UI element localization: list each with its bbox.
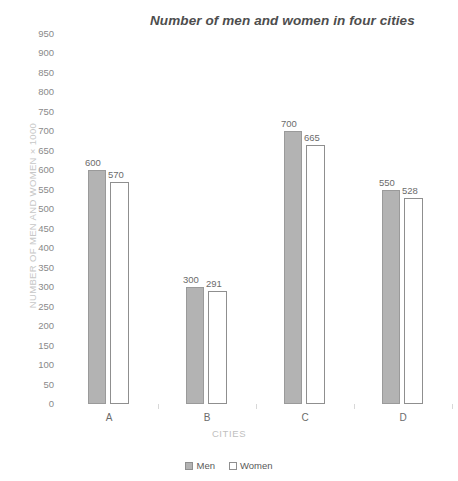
y-tick-label: 250 <box>24 302 54 312</box>
y-tick-label: 750 <box>24 107 54 117</box>
bar-value-label-men: 600 <box>85 157 101 168</box>
bar-men[interactable] <box>284 131 302 404</box>
bar-chart: Number of men and women in four cities N… <box>0 0 458 481</box>
bar-value-label-women: 291 <box>206 278 222 289</box>
bar-women[interactable] <box>404 198 423 404</box>
x-tick-label: C <box>285 412 325 423</box>
x-tick-label: A <box>89 412 129 423</box>
y-tick-label: 950 <box>24 29 54 39</box>
legend-label: Women <box>240 460 273 471</box>
chart-legend: MenWomen <box>0 460 458 471</box>
y-tick-label: 700 <box>24 126 54 136</box>
y-tick-label: 50 <box>24 380 54 390</box>
bar-men[interactable] <box>186 287 204 404</box>
y-tick-label: 500 <box>24 204 54 214</box>
legend-item[interactable]: Men <box>185 460 214 471</box>
legend-swatch-icon <box>229 462 237 470</box>
y-tick-label: 200 <box>24 321 54 331</box>
bar-value-label-women: 528 <box>402 185 418 196</box>
legend-swatch-icon <box>185 462 193 470</box>
bar-group: 700665 <box>284 34 326 404</box>
y-tick-label: 150 <box>24 341 54 351</box>
chart-title: Number of men and women in four cities <box>150 13 450 28</box>
bar-value-label-men: 550 <box>379 177 395 188</box>
y-axis-tick-labels: 0501001502002503003504004505005506006507… <box>22 34 54 404</box>
x-axis-tick-mark <box>354 404 355 409</box>
bar-group: 550528 <box>382 34 424 404</box>
bar-value-label-men: 700 <box>281 118 297 129</box>
bar-women[interactable] <box>306 145 325 404</box>
bar-women[interactable] <box>110 182 129 404</box>
x-tick-label: D <box>383 412 423 423</box>
x-tick-label: B <box>187 412 227 423</box>
bar-group: 300291 <box>186 34 228 404</box>
y-tick-label: 600 <box>24 165 54 175</box>
y-tick-label: 100 <box>24 360 54 370</box>
bar-women[interactable] <box>208 291 227 404</box>
y-tick-label: 550 <box>24 185 54 195</box>
x-axis-title: CITIES <box>0 428 458 439</box>
legend-item[interactable]: Women <box>229 460 273 471</box>
bar-value-label-men: 300 <box>183 274 199 285</box>
y-tick-label: 0 <box>24 399 54 409</box>
bar-value-label-women: 570 <box>108 169 124 180</box>
y-tick-label: 300 <box>24 282 54 292</box>
bar-value-label-women: 665 <box>304 132 320 143</box>
bar-group: 600570 <box>88 34 130 404</box>
y-tick-label: 350 <box>24 263 54 273</box>
y-tick-label: 400 <box>24 243 54 253</box>
y-tick-label: 800 <box>24 87 54 97</box>
x-axis-tick-mark <box>452 404 453 409</box>
plot-area: 600570300291700665550528 <box>60 34 452 404</box>
x-axis-tick-mark <box>158 404 159 409</box>
y-tick-label: 850 <box>24 68 54 78</box>
x-axis-tick-mark <box>256 404 257 409</box>
y-tick-label: 450 <box>24 224 54 234</box>
legend-label: Men <box>196 460 214 471</box>
bar-men[interactable] <box>88 170 106 404</box>
y-tick-label: 650 <box>24 146 54 156</box>
bar-men[interactable] <box>382 190 400 404</box>
y-tick-label: 900 <box>24 48 54 58</box>
